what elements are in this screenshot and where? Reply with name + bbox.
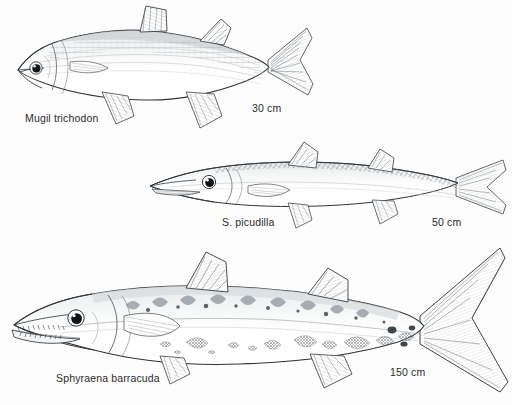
mugil-anal-fin — [186, 92, 222, 128]
sennet-anal-fin — [372, 200, 398, 224]
mugil-caudal-fin — [268, 28, 313, 95]
size-label-mugil-trichodon: 30 cm — [252, 103, 281, 114]
species-label-mugil-trichodon: Mugil trichodon — [25, 113, 98, 124]
figure-sphyraena-barracuda — [12, 248, 508, 392]
species-label-sphyraena-picudilla: S. picudilla — [222, 217, 275, 228]
mugil-first-dorsal-fin — [140, 6, 167, 32]
sennet-second-dorsal-fin — [368, 149, 394, 172]
sennet-pelvic-fin — [288, 203, 312, 228]
mugil-second-dorsal-fin — [200, 19, 231, 45]
sennet-body — [150, 162, 458, 206]
species-label-sphyraena-barracuda: Sphyraena barracuda — [56, 373, 160, 384]
size-label-sphyraena-barracuda: 150 cm — [390, 367, 425, 378]
sennet-caudal-fin — [456, 160, 506, 214]
mugil-body — [18, 30, 269, 100]
size-label-sphyraena-picudilla: 50 cm — [432, 217, 461, 228]
sennet-first-dorsal-fin — [288, 142, 318, 168]
barracuda-first-dorsal-fin — [186, 252, 228, 292]
barracuda-anal-fin — [310, 354, 352, 388]
barracuda-caudal-fin — [420, 248, 508, 392]
fish-illustration-plate — [0, 0, 512, 405]
